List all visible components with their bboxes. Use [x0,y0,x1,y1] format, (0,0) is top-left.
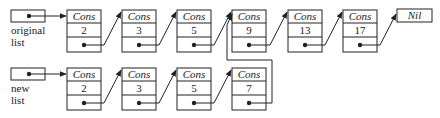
svg-text:Cons: Cons [183,68,206,80]
svg-text:9: 9 [246,24,252,36]
original-cons-5: Cons 5 [177,10,231,52]
original-list-label-line2: list [11,36,24,48]
svg-text:2: 2 [81,24,87,36]
svg-text:Cons: Cons [294,10,317,22]
new-cons-3: Cons 3 [122,68,176,110]
svg-text:Cons: Cons [73,68,96,80]
original-cons-2: Cons 2 [67,10,121,52]
original-cons-13: Cons 13 [288,10,342,52]
svg-text:3: 3 [136,24,142,36]
svg-text:5: 5 [191,24,197,36]
svg-text:Cons: Cons [128,68,151,80]
original-cons-9: Cons 9 [232,10,287,52]
svg-text:3: 3 [136,82,142,94]
svg-text:Cons: Cons [128,10,151,22]
new-list-label-line2: list [11,94,24,106]
original-list-label-line1: original [11,24,45,36]
svg-text:Cons: Cons [73,10,96,22]
svg-text:Cons: Cons [183,10,206,22]
new-cons-2: Cons 2 [67,68,121,110]
svg-text:Cons: Cons [349,10,372,22]
original-cons-3: Cons 3 [122,10,176,52]
new-cons-5: Cons 5 [177,68,231,110]
svg-text:Cons: Cons [238,10,261,22]
svg-text:13: 13 [300,24,312,36]
svg-text:5: 5 [191,82,197,94]
svg-text:Nil: Nil [407,9,421,21]
svg-text:17: 17 [355,24,367,36]
original-cons-17: Cons 17 [343,10,396,52]
svg-text:7: 7 [246,82,252,94]
linked-list-diagram: original list new list Cons 2 Cons 3 Con… [0,0,440,118]
svg-text:Cons: Cons [238,68,261,80]
new-list-label-line1: new [11,82,29,94]
new-list-head: new list [11,68,66,106]
svg-text:2: 2 [81,82,87,94]
original-list-head: original list [11,10,66,48]
nil-node: Nil [397,9,432,22]
